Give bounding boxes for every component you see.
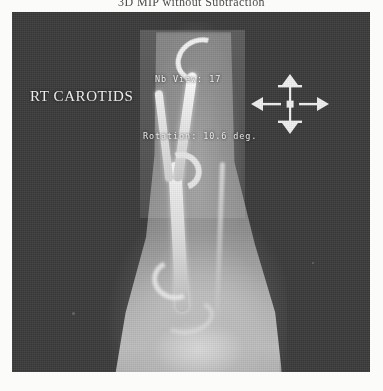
down-arrow-icon [278,106,302,134]
pan-rotate-control[interactable] [248,68,332,140]
center-handle-icon [287,101,294,108]
image-speck [72,312,75,315]
left-arrow-icon [251,97,281,111]
up-arrow-icon [278,74,302,102]
right-arrow-icon [299,97,329,111]
nb-view-overlay: Nb View: 17 [155,74,221,84]
page-title: 3D MIP without Subtraction [0,0,383,6]
angiography-mip-viewer[interactable]: RT CAROTIDS Nb View: 17 Rotation: 10.6 d… [12,12,370,372]
rotation-overlay: Rotation: 10.6 deg. [143,131,257,141]
image-speck [312,262,314,264]
study-label: RT CAROTIDS [30,88,133,105]
